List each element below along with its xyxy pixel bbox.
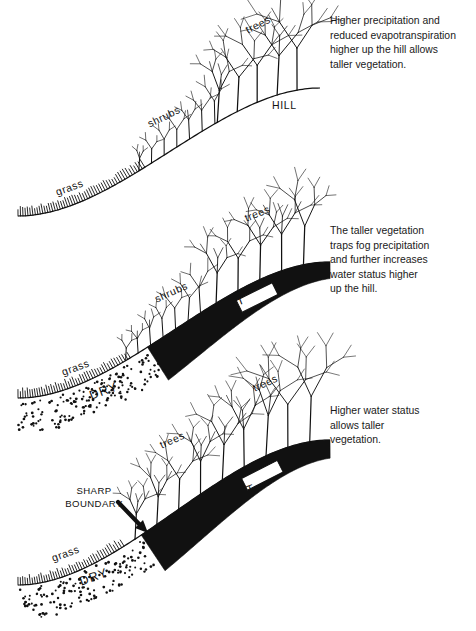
stipple-dot bbox=[62, 582, 64, 584]
grass-blade bbox=[127, 352, 130, 357]
grass-blade bbox=[32, 578, 33, 584]
branch-segment bbox=[252, 414, 264, 415]
stipple-dot bbox=[142, 361, 145, 364]
stipple-dot bbox=[68, 419, 71, 422]
stipple-dot bbox=[140, 568, 143, 571]
stipple-dot bbox=[31, 603, 33, 605]
branch-segment bbox=[145, 311, 146, 319]
branch-segment bbox=[214, 89, 221, 101]
grass-blade bbox=[97, 369, 100, 375]
stipple-dot bbox=[57, 423, 60, 426]
stipple-dot bbox=[120, 376, 122, 378]
stipple-dot bbox=[59, 419, 61, 421]
panel-2-caption-line-2: traps fog precipitation bbox=[330, 239, 476, 254]
branch-segment bbox=[201, 436, 206, 445]
grass-blade bbox=[62, 568, 65, 576]
stipple-dot bbox=[114, 394, 116, 396]
panel-1-label-hill: HILL bbox=[272, 99, 297, 111]
stipple-dot bbox=[71, 602, 73, 604]
grass-blade bbox=[51, 384, 53, 393]
branch-segment bbox=[282, 216, 283, 234]
branch-segment bbox=[242, 58, 247, 65]
branch-segment bbox=[199, 271, 208, 288]
stipple-dot bbox=[41, 411, 43, 413]
branch-segment bbox=[282, 205, 287, 216]
stipple-dot bbox=[62, 394, 64, 396]
branch-segment bbox=[126, 340, 131, 348]
branch-segment bbox=[294, 200, 304, 227]
stipple-dot bbox=[129, 566, 131, 568]
stipple-dot bbox=[126, 365, 128, 367]
stipple-dot bbox=[22, 426, 25, 429]
grass-blade bbox=[27, 578, 28, 584]
stipple-dot bbox=[134, 560, 136, 562]
grass-blade bbox=[44, 576, 45, 582]
grass-blade bbox=[41, 573, 43, 582]
branch-segment bbox=[170, 119, 177, 129]
stipple-dot bbox=[83, 412, 85, 414]
branch-segment bbox=[177, 119, 184, 130]
branch-segment bbox=[137, 330, 142, 338]
stipple-dot bbox=[35, 422, 37, 424]
stipple-dot bbox=[166, 373, 168, 375]
branch-segment bbox=[217, 258, 218, 273]
branch-segment bbox=[326, 372, 339, 375]
stipple-dot bbox=[59, 607, 61, 609]
branch-segment bbox=[137, 150, 140, 158]
stipple-dot bbox=[22, 403, 24, 405]
branch-segment bbox=[208, 455, 220, 456]
branch-segment bbox=[157, 140, 163, 142]
branch-segment bbox=[137, 144, 138, 150]
grass-blade bbox=[50, 571, 53, 580]
stipple-dot bbox=[129, 569, 131, 571]
grass-blade bbox=[89, 558, 92, 565]
stipple-dot bbox=[128, 576, 130, 578]
branch-segment bbox=[280, 188, 295, 199]
stipple-dot bbox=[131, 559, 134, 562]
stipple-dot bbox=[75, 397, 78, 400]
branch-segment bbox=[196, 55, 200, 64]
grass-blade bbox=[79, 562, 82, 569]
grass-blade bbox=[78, 378, 80, 384]
grass-blade bbox=[57, 568, 60, 577]
branch-segment bbox=[208, 447, 215, 455]
stipple-dot bbox=[131, 386, 133, 388]
branch-segment bbox=[289, 188, 295, 196]
branch-segment bbox=[343, 345, 351, 357]
branch-segment bbox=[308, 178, 314, 187]
grass-blade bbox=[109, 180, 113, 186]
branch-segment bbox=[169, 126, 175, 130]
branch-segment bbox=[326, 346, 327, 368]
stipple-dot bbox=[55, 409, 58, 412]
branch-segment bbox=[202, 110, 203, 131]
stipple-dot bbox=[144, 555, 147, 558]
stipple-dot bbox=[157, 369, 159, 371]
stipple-dot bbox=[83, 396, 85, 398]
stipple-dot bbox=[109, 377, 111, 379]
grass-blade bbox=[134, 166, 138, 172]
grass-blade bbox=[60, 571, 62, 577]
stipple-dot bbox=[79, 600, 81, 602]
stipple-dot bbox=[101, 379, 103, 381]
stipple-dot bbox=[127, 377, 129, 379]
branch-segment bbox=[298, 367, 311, 396]
stipple-dot bbox=[155, 352, 158, 355]
stipple-dot bbox=[60, 581, 62, 583]
stipple-dot bbox=[127, 557, 129, 559]
stipple-dot bbox=[43, 613, 45, 615]
stipple-dot bbox=[39, 419, 41, 421]
stipple-dot bbox=[145, 357, 148, 360]
branch-segment bbox=[326, 333, 333, 346]
grass-blade bbox=[53, 572, 55, 579]
branch-segment bbox=[271, 360, 278, 371]
branch-segment bbox=[260, 228, 261, 245]
grass-blade bbox=[56, 203, 58, 210]
panel-3-caption-line-3: vegetation. bbox=[330, 433, 476, 448]
branch-segment bbox=[217, 258, 227, 273]
stipple-dot bbox=[124, 572, 126, 574]
stipple-dot bbox=[49, 601, 51, 603]
stipple-dot bbox=[150, 369, 152, 371]
stipple-dot bbox=[132, 550, 134, 552]
stipple-dot bbox=[121, 381, 123, 383]
grass-blade bbox=[106, 181, 110, 188]
